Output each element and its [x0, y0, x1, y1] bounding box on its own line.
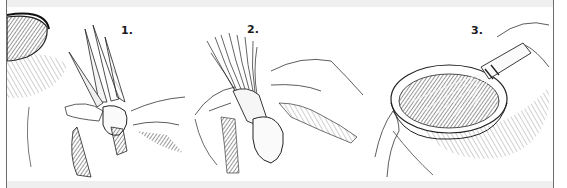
step-1-drawing	[7, 7, 189, 181]
step-3-panel: 3.	[373, 7, 555, 181]
step-2-panel: 2.	[191, 7, 371, 181]
step-3-drawing	[373, 7, 555, 181]
top-strip	[7, 0, 553, 7]
illustration-frame: 1. 2	[6, 0, 554, 188]
step-1-label: 1.	[121, 24, 133, 37]
step-3-label: 3.	[471, 24, 483, 37]
step-2-label: 2.	[247, 23, 259, 36]
bottom-strip	[7, 181, 553, 188]
step-1-panel: 1.	[7, 7, 189, 181]
step-2-drawing	[191, 7, 371, 181]
